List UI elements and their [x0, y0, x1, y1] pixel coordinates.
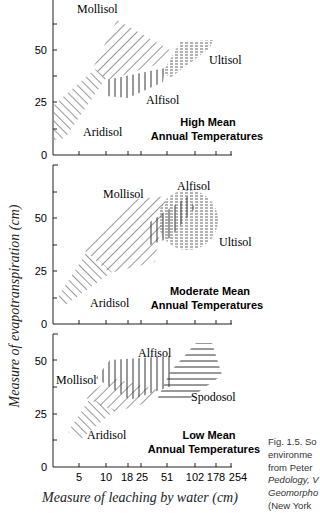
label-alfisol: Alfisol: [146, 93, 180, 107]
caption-line: Fig. 1.5. So: [268, 436, 320, 449]
label-aridisol: Aridisol: [87, 428, 127, 442]
panel-high-temperature: 0 25 50 Mollisol Ultisol Alfisol Aridiso…: [35, 0, 263, 161]
panel-title-line2: Annual Temperatures: [151, 130, 263, 142]
y-tick-25: 25: [35, 96, 47, 108]
label-alfisol: Alfisol: [138, 346, 172, 360]
x-tick-25: 25: [136, 471, 148, 483]
y-tick-0: 0: [41, 461, 47, 473]
y-tick-0: 0: [41, 318, 47, 330]
x-tick-102: 102: [186, 471, 204, 483]
y-tick-25: 25: [35, 265, 47, 277]
caption-line: (New York: [268, 500, 320, 513]
label-mollisol: Mollisol: [77, 2, 118, 16]
figure-caption: Fig. 1.5. So environme from Peter Pedolo…: [268, 436, 320, 513]
panel-title-line2: Annual Temperatures: [148, 443, 260, 455]
label-spodosol: Spodosol: [191, 390, 236, 404]
y-tick-50: 50: [35, 44, 47, 56]
label-mollisol: Mollisol: [103, 187, 144, 201]
panel-title-line1: High Mean: [180, 116, 236, 128]
caption-line: Pedology, V: [268, 474, 320, 487]
caption-line: environme: [268, 449, 320, 462]
x-tick-10: 10: [100, 471, 112, 483]
region-ultisol: [158, 190, 218, 250]
label-alfisol: Alfisol: [177, 179, 211, 193]
caption-line: Geomorpho: [268, 487, 320, 500]
x-tick-254: 254: [229, 471, 247, 483]
y-tick-50: 50: [35, 212, 47, 224]
panel-title-line2: Annual Temperatures: [151, 299, 263, 311]
label-mollisol: Mollisol: [56, 373, 97, 387]
panel-title-line1: Moderate Mean: [170, 285, 250, 297]
label-ultisol: Ultisol: [209, 53, 242, 67]
x-tick-5: 5: [76, 471, 82, 483]
caption-line: from Peter: [268, 462, 320, 475]
y-tick-25: 25: [35, 408, 47, 420]
x-tick-labels: 5 10 18 25 51 102 178 254: [76, 471, 247, 483]
label-aridisol: Aridisol: [90, 296, 130, 310]
y-tick-0: 0: [41, 149, 47, 161]
x-tick-178: 178: [207, 471, 225, 483]
x-tick-18: 18: [121, 471, 133, 483]
panel-low-temperature: 0 25 50 Alfisol Mollisol Spodosol Aridis…: [35, 334, 260, 483]
panel-moderate-temperature: 0 25 50 Mollisol Alfisol Ultisol Aridiso…: [35, 165, 263, 330]
label-ultisol: Ultisol: [219, 235, 252, 249]
x-tick-51: 51: [161, 471, 173, 483]
panel-title-line1: Low Mean: [182, 429, 235, 441]
x-axis-label: Measure of leaching by water (cm): [40, 490, 240, 506]
region-ultisol: [163, 40, 213, 78]
y-tick-50: 50: [35, 355, 47, 367]
label-aridisol: Aridisol: [83, 125, 123, 139]
y-axis-label: Measure of evapotranspiration (cm): [7, 141, 23, 471]
